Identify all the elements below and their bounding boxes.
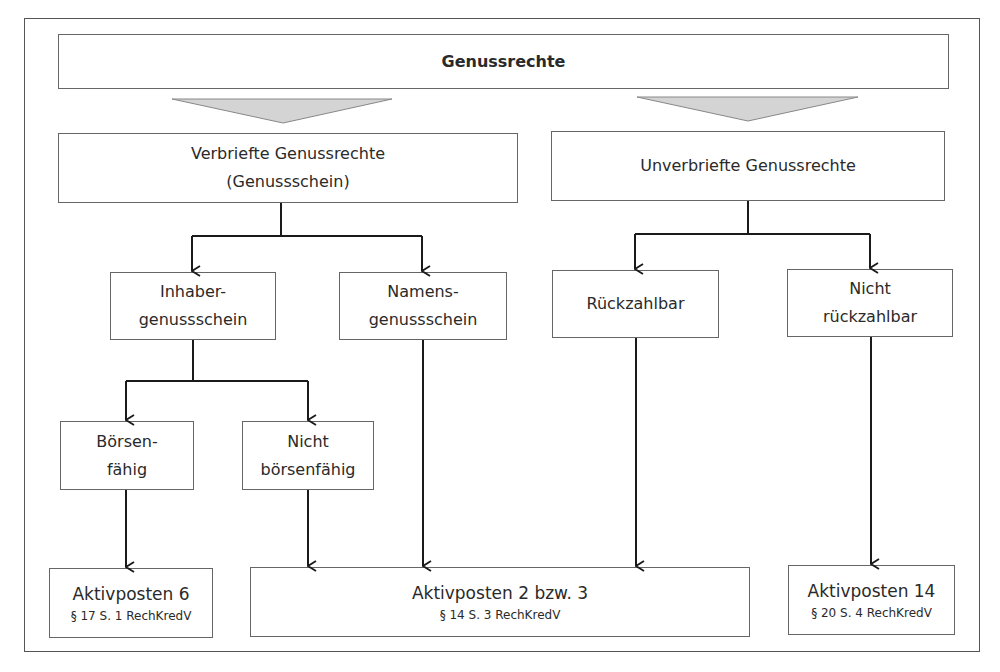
connector-verbriefte [192,203,422,236]
connector-unverbriefte [635,201,870,234]
funnel-arrow-left-icon [172,99,392,123]
connector-layer [0,0,1000,672]
funnel-arrow-right-icon [637,97,858,121]
connector-inhaber [126,340,308,381]
